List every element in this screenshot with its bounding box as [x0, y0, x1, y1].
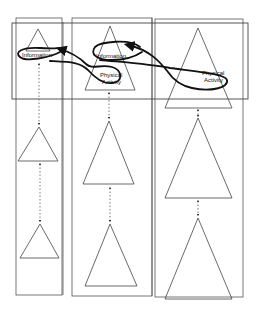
col2-triangle-mid [83, 121, 134, 184]
column-3-box [155, 19, 243, 297]
diagram-canvas: Information Information Physical Activit… [0, 0, 261, 326]
col2-information-label: Information [96, 53, 126, 59]
col3-triangle-mid [165, 118, 232, 198]
column-boxes [16, 18, 243, 297]
top-band-box [12, 23, 248, 99]
col3-physical-label: Physical [202, 70, 224, 76]
col3-activity-label: Activity [204, 77, 223, 83]
col3-triangle-bottom [165, 218, 232, 299]
flow-path [18, 42, 227, 90]
triangles [18, 26, 232, 299]
col2-physical-label: Physical [100, 72, 122, 78]
col1-triangle-mid [18, 127, 58, 161]
col1-information-label: Information [22, 52, 52, 58]
col1-triangle-bottom [20, 224, 59, 258]
col2-activity-label: Activity [102, 79, 121, 85]
col2-triangle-bottom [85, 224, 137, 286]
labels: Information Information Physical Activit… [22, 52, 224, 85]
